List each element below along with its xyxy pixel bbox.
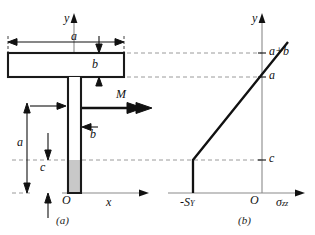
dim-yield-depth-label: c xyxy=(40,161,45,173)
panel-a-x-axis-label: x xyxy=(106,196,111,208)
yield-stress-subscript: Y xyxy=(190,199,195,208)
stress-distribution-curve xyxy=(193,42,288,193)
panel-b-origin-label: O xyxy=(250,194,259,206)
panel-a-y-axis-label: y xyxy=(64,12,69,24)
panel-b-y-axis-label: y xyxy=(252,12,257,24)
tbeam-flange xyxy=(8,53,124,77)
dimension-web-height xyxy=(24,103,66,193)
moment-arrow xyxy=(82,103,152,114)
dim-flange-width-label: a xyxy=(71,30,77,42)
yield-stress-text: -S xyxy=(180,195,190,209)
tick-label-a: a xyxy=(269,69,275,81)
dim-web-thickness-label: b xyxy=(90,128,96,140)
figure-canvas xyxy=(0,0,315,235)
dim-web-height-label: a xyxy=(17,136,23,148)
tick-label-a-plus-b: a+b xyxy=(269,45,289,57)
tick-label-yield-stress: -SY xyxy=(180,196,195,208)
tbeam-web-yielded-zone xyxy=(68,160,81,193)
panel-b-x-axis-label: σzz xyxy=(276,196,288,208)
tick-label-c: c xyxy=(269,152,274,164)
moment-label: M xyxy=(116,88,126,100)
caption-b: (b) xyxy=(238,214,251,226)
tbeam-web-elastic xyxy=(68,77,81,160)
panel-b-y-axis xyxy=(259,13,266,193)
dimension-yield-depth xyxy=(45,133,51,218)
dim-flange-thickness-label: b xyxy=(92,58,98,70)
dimension-flange-width xyxy=(8,36,124,52)
caption-a: (a) xyxy=(56,214,69,226)
sigma-subscript: zz xyxy=(282,199,288,208)
panel-a-origin-label: O xyxy=(62,194,71,206)
